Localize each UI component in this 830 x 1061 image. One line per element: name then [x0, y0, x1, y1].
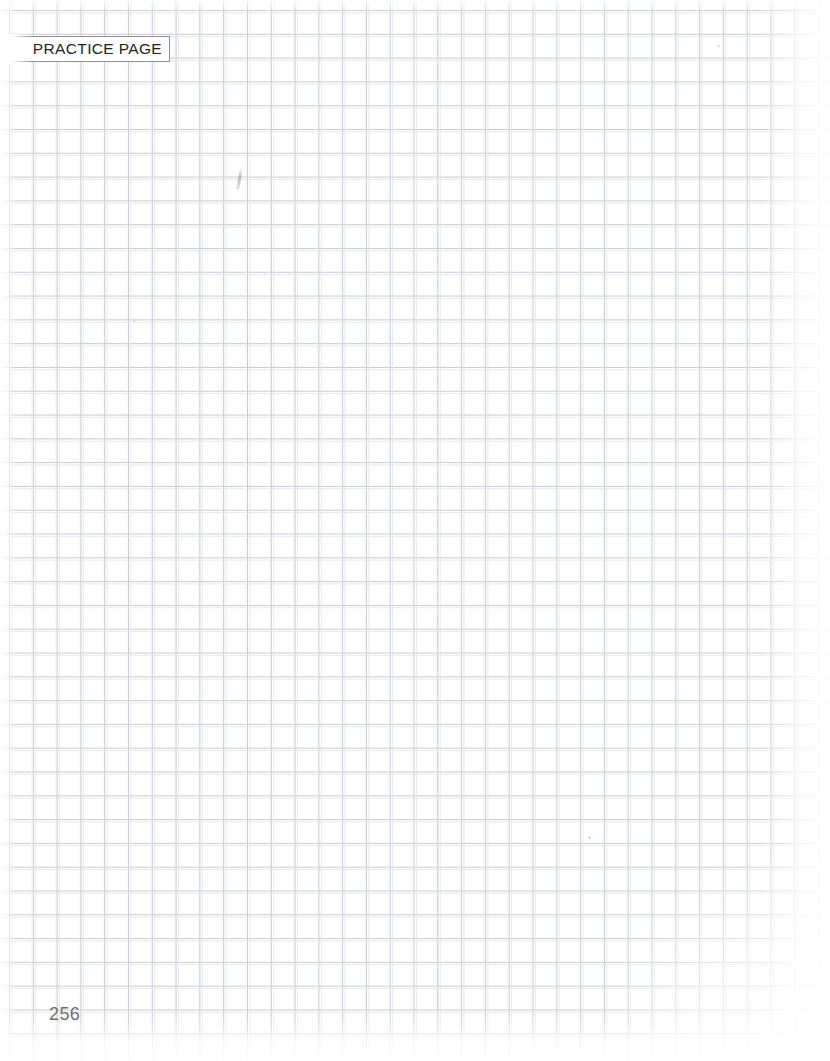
practice-page: PRACTICE PAGE 256 [0, 0, 830, 1061]
page-number: 256 [49, 1004, 80, 1025]
practice-page-tab-label: PRACTICE PAGE [33, 40, 162, 58]
graph-grid-texture [0, 0, 830, 1061]
practice-page-tab: PRACTICE PAGE [0, 36, 170, 62]
